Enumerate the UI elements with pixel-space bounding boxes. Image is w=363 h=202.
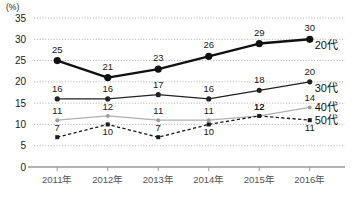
series-line-40代 <box>57 107 310 120</box>
data-point-label: 16 <box>102 83 113 94</box>
data-point <box>54 57 61 64</box>
x-axis-tick-label: 2012年 <box>92 174 123 185</box>
y-axis-tick-label: 15 <box>15 98 27 109</box>
y-axis-tick-label: 20 <box>15 76 27 87</box>
data-point <box>156 92 161 97</box>
x-axis-tick-label: 2014年 <box>193 174 224 185</box>
chart-canvas: (%)051015202530352011年2012年2013年2014年201… <box>0 0 363 202</box>
data-point <box>55 96 60 101</box>
data-point-label: 10 <box>203 126 214 137</box>
y-axis-tick-label: 30 <box>15 34 27 45</box>
data-point <box>207 118 211 122</box>
data-point <box>106 114 110 118</box>
data-point-label: 25 <box>52 44 63 55</box>
data-point <box>156 135 160 139</box>
y-axis-tick-label: 35 <box>15 13 27 24</box>
data-point-label: 11 <box>305 122 315 133</box>
data-point <box>307 79 312 84</box>
y-axis-tick-label: 0 <box>20 162 26 173</box>
series-40代: 11121111121440代 <box>52 92 338 122</box>
data-point-label: 12 <box>254 101 265 112</box>
series-30代: 16161716182030代 <box>52 66 338 102</box>
data-point-label: 18 <box>254 74 265 85</box>
legend-label-30代: 30代 <box>315 82 338 94</box>
data-point <box>306 36 313 43</box>
data-point-label: 23 <box>153 52 164 63</box>
legend-label-40代: 40代 <box>315 101 338 113</box>
x-axis-tick-label: 2015年 <box>244 174 275 185</box>
data-point-label: 7 <box>156 122 161 133</box>
y-axis-unit-label: (%) <box>6 2 19 12</box>
series-line-30代 <box>57 82 310 99</box>
data-point-label: 11 <box>153 105 163 116</box>
data-point-label: 10 <box>102 126 113 137</box>
data-point-label: 12 <box>102 101 113 112</box>
data-point-label: 20 <box>304 66 315 77</box>
y-axis-tick-label: 25 <box>15 55 27 66</box>
data-point <box>55 135 59 139</box>
data-point-label: 30 <box>304 22 315 33</box>
data-point <box>205 53 212 60</box>
data-point-label: 16 <box>52 83 63 94</box>
data-point <box>104 74 111 81</box>
data-point <box>308 105 312 109</box>
data-point-label: 11 <box>52 105 62 116</box>
x-axis-tick-label: 2016年 <box>294 174 325 185</box>
data-point-label: 16 <box>203 83 214 94</box>
legend-label-50代: 50代 <box>315 114 338 126</box>
data-point-label: 14 <box>304 92 315 103</box>
data-point-label: 26 <box>203 39 214 50</box>
data-point <box>257 114 261 118</box>
series-20代: 25212326293020代 <box>52 22 338 81</box>
x-axis-tick-label: 2011年 <box>42 174 72 185</box>
line-chart: (%)051015202530352011年2012年2013年2014年201… <box>0 0 363 202</box>
data-point <box>206 96 211 101</box>
data-point-label: 17 <box>153 79 164 90</box>
legend-label-20代: 20代 <box>315 39 338 51</box>
data-point-label: 21 <box>102 61 113 72</box>
data-point <box>257 88 262 93</box>
series-line-20代 <box>57 39 310 77</box>
data-point-label: 11 <box>204 105 214 116</box>
y-axis-tick-label: 5 <box>20 140 26 151</box>
y-axis-tick-label: 10 <box>15 119 27 130</box>
x-axis-tick-label: 2013年 <box>143 174 174 185</box>
data-point <box>155 65 162 72</box>
series-line-50代 <box>57 116 310 137</box>
data-point-label: 29 <box>254 27 265 38</box>
data-point <box>256 40 263 47</box>
data-point <box>105 96 110 101</box>
data-point-label: 7 <box>55 122 60 133</box>
